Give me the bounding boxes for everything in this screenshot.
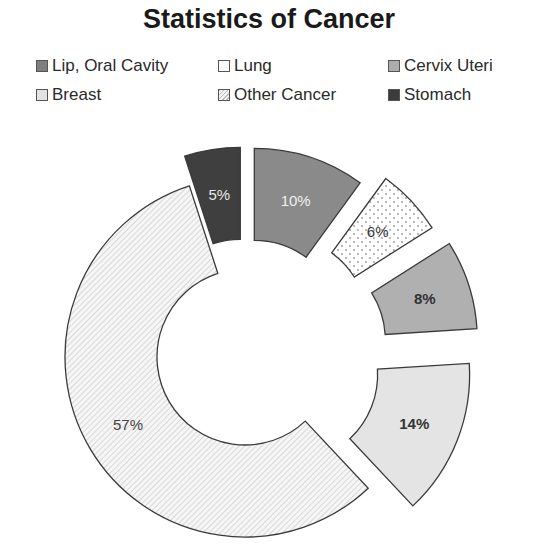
doughnut-chart: 10%6%8%14%57%5% — [0, 0, 538, 547]
data-label: 10% — [281, 192, 311, 209]
slice-breast — [350, 363, 470, 506]
data-label: 6% — [367, 223, 389, 240]
data-label: 5% — [209, 186, 231, 203]
data-label: 8% — [414, 290, 436, 307]
data-label: 57% — [113, 416, 143, 433]
data-label: 14% — [399, 415, 429, 432]
